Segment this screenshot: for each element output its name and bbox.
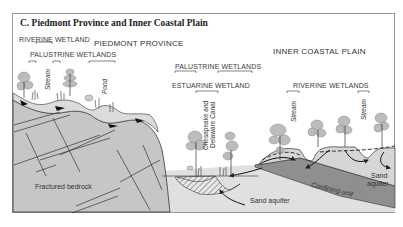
fractured-bedrock-label: Fractured bedrock xyxy=(35,183,92,190)
stream-label-left: Stream xyxy=(44,69,51,90)
estuarine-wetland-label: ESTUARINE WETLAND xyxy=(172,82,250,89)
palustrine-wetlands-label-left: PALUSTRINE WETLANDS xyxy=(30,51,116,58)
riverine-wetlands-label-right: RIVERINE WETLANDS xyxy=(293,82,369,89)
riverine-wetland-label-left: RIVERINE WETLAND xyxy=(19,36,90,43)
inner-coastal-plain-label: INNER COASTAL PLAIN xyxy=(273,47,366,56)
sand-aquifer-label-right-2: aquifer xyxy=(367,180,388,187)
pond-label: Pond xyxy=(101,79,108,94)
figure-title: C. Piedmont Province and Inner Coastal P… xyxy=(20,18,208,28)
shrub-icon xyxy=(85,95,93,101)
piedmont-province-label: PIEDMONT PROVINCE xyxy=(94,39,184,48)
stream-label-right: Stream xyxy=(360,99,367,120)
stream-label-mid: Stream xyxy=(290,101,297,122)
sand-aquifer-label-right-1: Sand xyxy=(371,172,387,179)
shrub-icon xyxy=(187,166,193,170)
palustrine-wetlands-label-center: PALUSTRINE WETLANDS xyxy=(175,63,261,70)
sand-aquifer-label-center: Sand aquifer xyxy=(250,197,290,204)
canal-label-line2: Delaware Canal xyxy=(210,102,217,148)
